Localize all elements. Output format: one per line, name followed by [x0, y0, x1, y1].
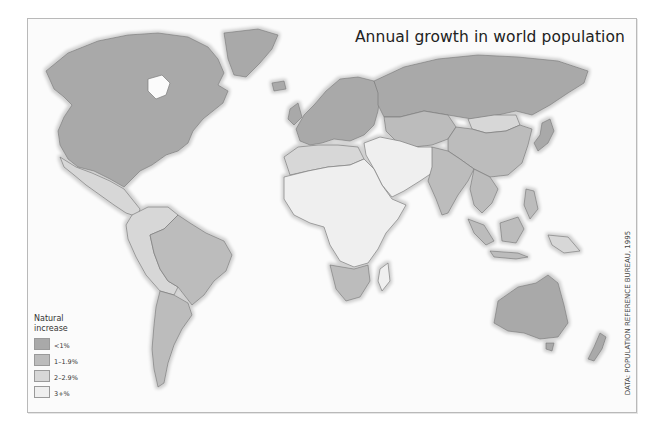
map-title: Annual growth in world population: [355, 28, 625, 46]
region-europe: [296, 77, 380, 145]
region-papua-new-guinea: [548, 235, 580, 253]
region-southern-cone: [152, 291, 192, 387]
legend-label: <1%: [54, 337, 70, 351]
legend-title-line1: Natural: [34, 314, 78, 324]
map-frame: Annual growth in world population Natura…: [27, 18, 637, 413]
region-indonesia-java: [490, 251, 528, 259]
legend-item-2-2.9: 2–2.9%: [34, 369, 78, 383]
legend-item-3plus: 3+%: [34, 385, 78, 399]
legend-label: 1–1.9%: [54, 353, 78, 367]
legend: Natural increase <1% 1–1.9% 2–2.9% 3+%: [34, 314, 78, 401]
legend-item-lt1: <1%: [34, 337, 78, 351]
region-southern-africa: [330, 265, 370, 301]
region-iceland: [272, 81, 286, 91]
region-madagascar: [378, 263, 390, 291]
region-greenland: [224, 29, 278, 77]
legend-swatch: [34, 338, 50, 350]
region-borneo: [500, 217, 524, 243]
legend-swatch: [34, 386, 50, 398]
region-australia: [494, 275, 568, 339]
region-russia: [374, 55, 588, 119]
region-north-america: [46, 33, 228, 187]
data-credit: DATA: POPULATION REFERENCE BUREAU, 1995: [624, 213, 632, 413]
legend-title: Natural increase: [34, 314, 78, 334]
world-map: [28, 19, 636, 412]
legend-label: 2–2.9%: [54, 369, 78, 383]
legend-title-line2: increase: [34, 324, 78, 334]
legend-swatch: [34, 370, 50, 382]
legend-item-1-1.9: 1–1.9%: [34, 353, 78, 367]
region-tasmania: [546, 343, 554, 351]
legend-swatch: [34, 354, 50, 366]
region-new-zealand: [588, 333, 606, 361]
region-philippines: [524, 189, 538, 219]
legend-label: 3+%: [54, 385, 70, 399]
region-japan: [534, 119, 554, 151]
region-indonesia-sumatra: [468, 219, 494, 245]
